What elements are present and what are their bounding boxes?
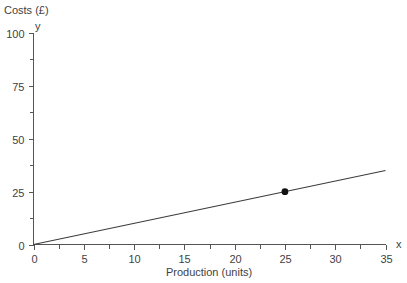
x-tick-label: 25 (279, 253, 291, 265)
cost-line-chart: Costs (£) y x 0255075100 05101520253035 … (0, 0, 407, 283)
series-line (34, 170, 386, 244)
chart-canvas: Costs (£) y x 0255075100 05101520253035 … (0, 0, 407, 283)
x-tick-label: 0 (31, 253, 37, 265)
y-tick-label: 0 (18, 240, 24, 252)
x-tick-label: 30 (329, 253, 341, 265)
y-axis-title: Costs (£) (4, 4, 49, 16)
x-tick-label: 35 (380, 253, 392, 265)
y-tick-label: 75 (12, 81, 24, 93)
y-tick-label: 100 (6, 28, 24, 40)
y-axis-ticks: 0255075100 (6, 28, 33, 252)
x-tick-label: 10 (128, 253, 140, 265)
x-axis-title: Production (units) (166, 266, 252, 278)
series-group (34, 170, 386, 244)
y-tick-label: 25 (12, 187, 24, 199)
y-axis-letter: y (35, 20, 41, 32)
x-axis-letter: x (396, 238, 402, 250)
x-tick-label: 15 (178, 253, 190, 265)
x-tick-label: 20 (229, 253, 241, 265)
x-tick-label: 5 (81, 253, 87, 265)
data-point-marker (282, 188, 289, 195)
y-tick-label: 50 (12, 134, 24, 146)
x-axis-ticks: 05101520253035 (31, 245, 392, 265)
data-points-group (282, 188, 289, 195)
